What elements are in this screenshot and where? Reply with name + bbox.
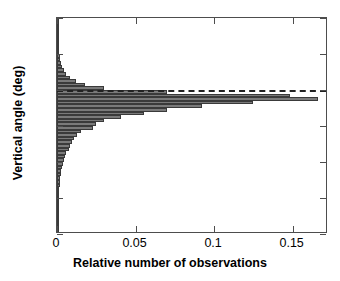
y-tick-mark: [57, 234, 63, 235]
y-tick-mark: [320, 54, 326, 55]
y-tick-mark: [320, 162, 326, 163]
y-tick-mark: [320, 234, 326, 235]
y-tick-mark: [57, 198, 63, 199]
x-tick-label: 0: [31, 237, 81, 250]
x-tick-mark: [214, 226, 215, 232]
y-tick-mark: [57, 162, 63, 163]
x-tick-mark: [136, 18, 137, 24]
y-tick-mark: [320, 18, 326, 19]
histogram-figure: 20100−10−20−30−40 00.050.10.15 Relative …: [0, 0, 340, 281]
x-tick-mark: [57, 18, 58, 24]
x-tick-mark: [57, 226, 58, 232]
x-tick-label: 0.05: [110, 237, 160, 250]
x-tick-mark: [214, 18, 215, 24]
x-tick-mark: [293, 18, 294, 24]
plot-area: [56, 17, 327, 233]
y-axis-title: Vertical angle (deg): [11, 43, 25, 203]
x-axis-title: Relative number of observations: [0, 256, 340, 270]
histogram-bars: [57, 18, 326, 232]
x-tick-label: 0.1: [188, 237, 238, 250]
y-tick-mark: [57, 54, 63, 55]
x-tick-label: 0.15: [267, 237, 317, 250]
y-tick-mark: [320, 198, 326, 199]
x-tick-mark: [293, 226, 294, 232]
y-tick-mark: [320, 126, 326, 127]
zero-reference-dashed-line: [57, 90, 326, 92]
x-tick-mark: [136, 226, 137, 232]
y-tick-mark: [320, 90, 326, 91]
y-tick-mark: [57, 90, 63, 91]
y-tick-mark: [57, 126, 63, 127]
